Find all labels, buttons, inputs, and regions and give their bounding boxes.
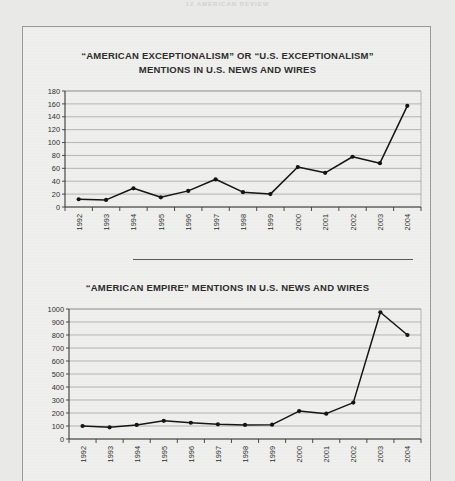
data-point [378,161,382,165]
x-axis-tick-label: 1998 [239,214,248,230]
y-axis-tick-label: 800 [52,331,64,340]
data-point [323,171,327,175]
chart-title-1-line1: “AMERICAN EXCEPTIONALISM” OR “U.S. EXCEP… [81,50,373,61]
data-point [214,177,218,181]
plot-area-1: 0204060801001201401601801992199319941995… [23,85,432,245]
x-axis-tick-label: 2002 [349,214,358,230]
y-axis-tick-label: 200 [52,409,64,418]
line-chart-2: 0100200300400500600700800900100019921993… [23,303,432,478]
data-point [135,423,139,427]
data-point [297,409,301,413]
x-axis-tick-label: 1992 [79,446,88,462]
chart-title-1: “AMERICAN EXCEPTIONALISM” OR “U.S. EXCEP… [23,27,432,77]
x-axis-tick-label: 2004 [403,214,412,230]
y-axis-tick-label: 300 [52,396,64,405]
y-axis-tick-label: 160 [48,100,60,109]
x-axis-tick-label: 2004 [403,446,412,462]
data-point [405,333,409,337]
x-axis-tick-label: 1999 [268,446,277,462]
y-axis-tick-label: 900 [52,318,64,327]
chart-title-1-line2: MENTIONS IN U.S. NEWS AND WIRES [139,64,316,75]
x-axis-tick-label: 1997 [214,446,223,462]
document-page: “AMERICAN EXCEPTIONALISM” OR “U.S. EXCEP… [22,26,431,481]
x-axis-tick-label: 2002 [349,446,358,462]
x-axis-tick-label: 1992 [75,214,84,230]
x-axis-tick-label: 1997 [212,214,221,230]
data-point [268,192,272,196]
y-axis-tick-label: 100 [52,422,64,431]
chart-title-2: “AMERICAN EMPIRE” MENTIONS IN U.S. NEWS … [23,261,432,295]
x-axis-tick-label: 1994 [133,446,142,462]
data-point [80,424,84,428]
x-axis-tick-label: 2003 [376,214,385,230]
data-point [77,197,81,201]
y-axis-tick-label: 40 [52,177,60,186]
y-axis-tick-label: 0 [56,203,60,212]
data-point [243,423,247,427]
y-axis-tick-label: 400 [52,383,64,392]
data-point [378,310,382,314]
data-point [186,189,190,193]
x-axis-tick-label: 2003 [376,446,385,462]
chart-title-2-line1: “AMERICAN EMPIRE” MENTIONS IN U.S. NEWS … [86,282,369,293]
data-point [216,422,220,426]
line-chart-1: 0204060801001201401601801992199319941995… [23,85,432,245]
y-axis-tick-label: 120 [48,125,60,134]
plot-area-2: 0100200300400500600700800900100019921993… [23,303,432,478]
figure-empire: “AMERICAN EMPIRE” MENTIONS IN U.S. NEWS … [23,261,432,478]
data-point [351,401,355,405]
x-axis-tick-label: 1995 [157,214,166,230]
x-axis-tick-label: 1996 [184,214,193,230]
data-series-line [83,312,408,427]
section-divider [133,259,413,260]
x-axis-tick-label: 1994 [129,214,138,230]
data-point [350,155,354,159]
y-axis-tick-label: 600 [52,357,64,366]
x-axis-tick-label: 2001 [322,446,331,462]
data-point [241,190,245,194]
y-axis-tick-label: 700 [52,344,64,353]
x-axis-tick-label: 2000 [295,446,304,462]
data-point [162,419,166,423]
scan-page-header: 12 AMERICAN REVIEW [0,1,455,7]
data-point [270,423,274,427]
data-series-line [79,106,408,200]
data-point [189,421,193,425]
y-axis-tick-label: 0 [60,435,64,444]
x-axis-tick-label: 1993 [102,214,111,230]
y-axis-tick-label: 80 [52,151,60,160]
y-axis-tick-label: 20 [52,190,60,199]
x-axis-tick-label: 1993 [106,446,115,462]
y-axis-tick-label: 180 [48,87,60,96]
y-axis-tick-label: 60 [52,164,60,173]
data-point [324,412,328,416]
y-axis-tick-label: 1000 [48,305,64,314]
data-point [405,104,409,108]
x-axis-tick-label: 1999 [266,214,275,230]
data-point [108,425,112,429]
x-axis-tick-label: 2001 [321,214,330,230]
x-axis-tick-label: 2000 [294,214,303,230]
data-point [159,195,163,199]
x-axis-tick-label: 1995 [160,446,169,462]
data-point [104,198,108,202]
y-axis-tick-label: 140 [48,112,60,121]
data-point [296,165,300,169]
data-point [131,186,135,190]
x-axis-tick-label: 1998 [241,446,250,462]
y-axis-tick-label: 500 [52,370,64,379]
figure-exceptionalism: “AMERICAN EXCEPTIONALISM” OR “U.S. EXCEP… [23,27,432,245]
x-axis-tick-label: 1996 [187,446,196,462]
y-axis-tick-label: 100 [48,138,60,147]
